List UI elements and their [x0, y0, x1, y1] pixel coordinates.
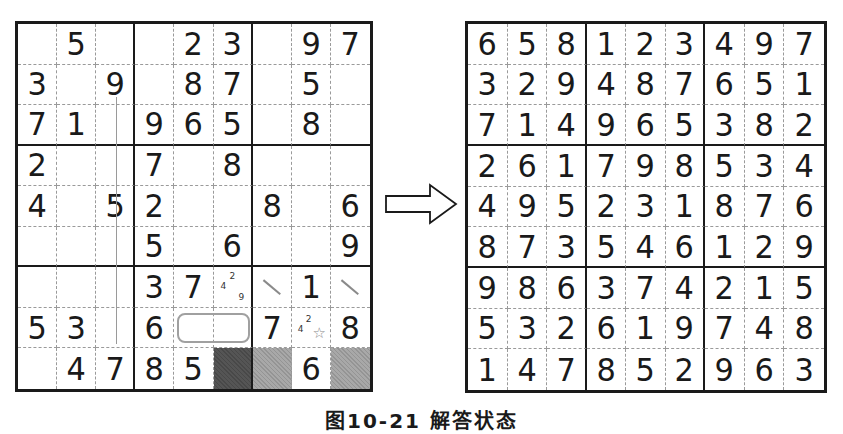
grid-cell[interactable]: 5 [214, 105, 253, 146]
grid-cell[interactable]: 8 [587, 349, 627, 390]
grid-cell[interactable]: 9 [547, 65, 587, 106]
grid-cell[interactable]: 5 [547, 187, 587, 228]
grid-cell[interactable]: 1 [547, 146, 587, 187]
grid-cell[interactable]: 4 [57, 348, 96, 389]
grid-cell[interactable]: 7 [18, 105, 57, 146]
grid-cell[interactable]: 6 [705, 65, 745, 106]
grid-cell[interactable]: 6 [745, 349, 785, 390]
grid-cell[interactable]: 9 [468, 268, 508, 309]
grid-cell[interactable]: 8 [174, 65, 213, 106]
grid-cell[interactable] [96, 24, 135, 65]
grid-cell[interactable]: 8 [214, 146, 253, 187]
grid-cell[interactable] [331, 146, 370, 187]
shaded-cell[interactable] [214, 348, 253, 389]
grid-cell[interactable] [331, 65, 370, 106]
grid-cell[interactable]: 6 [468, 24, 508, 65]
grid-cell[interactable]: 3 [57, 308, 96, 349]
grid-cell[interactable]: 7 [547, 349, 587, 390]
grid-cell[interactable]: 7 [253, 308, 292, 349]
grid-cell[interactable]: 4 [587, 65, 627, 106]
grid-cell[interactable] [57, 146, 96, 187]
grid-cell[interactable]: 2 [18, 146, 57, 187]
grid-cell[interactable]: 3 [626, 187, 666, 228]
shaded-cell[interactable] [253, 348, 292, 389]
grid-cell[interactable]: 3 [666, 24, 706, 65]
grid-cell[interactable]: 3 [468, 65, 508, 106]
grid-cell[interactable] [57, 227, 96, 268]
grid-cell[interactable]: 5 [705, 146, 745, 187]
grid-cell[interactable]: 5 [18, 308, 57, 349]
grid-cell[interactable]: 4 [18, 186, 57, 227]
grid-cell[interactable]: 4 [666, 268, 706, 309]
grid-cell[interactable] [292, 146, 331, 187]
grid-cell[interactable]: 9 [705, 349, 745, 390]
grid-cell[interactable]: 6 [587, 309, 627, 350]
grid-cell[interactable] [18, 348, 57, 389]
grid-cell[interactable] [214, 186, 253, 227]
grid-cell[interactable]: 2 [626, 24, 666, 65]
grid-cell[interactable]: 1 [784, 65, 824, 106]
grid-cell[interactable] [253, 267, 292, 308]
grid-cell[interactable]: 7 [745, 187, 785, 228]
grid-cell[interactable]: 4 [508, 349, 548, 390]
grid-cell[interactable]: 6 [174, 105, 213, 146]
grid-cell[interactable]: 2 [174, 24, 213, 65]
grid-cell[interactable]: 5 [666, 105, 706, 146]
grid-cell[interactable]: 7 [135, 146, 174, 187]
grid-cell[interactable]: 6 [331, 186, 370, 227]
grid-cell[interactable]: 1 [666, 187, 706, 228]
grid-cell[interactable]: 2 [547, 309, 587, 350]
grid-cell[interactable] [57, 186, 96, 227]
grid-cell[interactable] [18, 267, 57, 308]
grid-cell[interactable]: 9 [135, 105, 174, 146]
grid-cell[interactable]: 2 [135, 186, 174, 227]
grid-cell[interactable]: 8 [666, 146, 706, 187]
grid-cell[interactable]: 42☆ [292, 308, 331, 349]
grid-cell[interactable]: 8 [292, 105, 331, 146]
grid-cell[interactable]: 3 [135, 267, 174, 308]
grid-cell[interactable]: 8 [705, 187, 745, 228]
grid-cell[interactable]: 8 [784, 309, 824, 350]
grid-cell[interactable]: 7 [174, 267, 213, 308]
grid-cell[interactable]: 7 [626, 268, 666, 309]
grid-cell[interactable]: 3 [547, 227, 587, 268]
grid-cell[interactable] [253, 65, 292, 106]
grid-cell[interactable]: 6 [626, 105, 666, 146]
grid-cell[interactable]: 9 [784, 227, 824, 268]
grid-cell[interactable]: 4 [784, 146, 824, 187]
shaded-cell[interactable] [331, 348, 370, 389]
grid-cell[interactable]: 7 [666, 65, 706, 106]
grid-cell[interactable]: 3 [587, 268, 627, 309]
grid-cell[interactable]: 9 [508, 187, 548, 228]
grid-cell[interactable]: 3 [745, 146, 785, 187]
grid-cell[interactable]: 8 [508, 268, 548, 309]
grid-cell[interactable]: 7 [331, 24, 370, 65]
grid-cell[interactable]: 5 [135, 227, 174, 268]
grid-cell[interactable] [253, 24, 292, 65]
grid-cell[interactable] [253, 105, 292, 146]
grid-cell[interactable]: 8 [331, 308, 370, 349]
grid-cell[interactable]: 5 [587, 227, 627, 268]
grid-cell[interactable]: 1 [587, 24, 627, 65]
grid-cell[interactable] [253, 146, 292, 187]
grid-cell[interactable]: 8 [253, 186, 292, 227]
grid-cell[interactable]: 1 [626, 309, 666, 350]
grid-cell[interactable]: 7 [468, 105, 508, 146]
grid-cell[interactable]: 8 [135, 348, 174, 389]
grid-cell[interactable] [57, 267, 96, 308]
grid-cell[interactable]: 2 [468, 146, 508, 187]
grid-cell[interactable]: 4 [705, 24, 745, 65]
grid-cell[interactable]: 7 [705, 309, 745, 350]
grid-cell[interactable]: 5 [292, 65, 331, 106]
grid-cell[interactable]: 7 [214, 65, 253, 106]
grid-cell[interactable] [292, 227, 331, 268]
grid-cell[interactable]: 1 [705, 227, 745, 268]
grid-cell[interactable]: 2 [666, 349, 706, 390]
grid-cell[interactable]: 6 [666, 227, 706, 268]
grid-cell[interactable]: 5 [174, 348, 213, 389]
grid-cell[interactable] [135, 65, 174, 106]
grid-cell[interactable] [174, 186, 213, 227]
grid-cell[interactable]: 3 [508, 309, 548, 350]
grid-cell[interactable]: 4 [547, 105, 587, 146]
grid-cell[interactable]: 3 [18, 65, 57, 106]
